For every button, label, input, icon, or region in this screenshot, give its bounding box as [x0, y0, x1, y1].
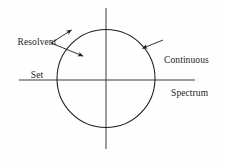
resolvent-set-label-line-2: Set	[8, 70, 66, 81]
resolvent-set-label-line-1: Resolvent	[8, 37, 66, 48]
continuous-spectrum-label-line-2: Spectrum	[164, 88, 224, 99]
resolvent-set-label: Resolvent Set	[8, 15, 66, 103]
continuous-spectrum-label-line-1: Continuous	[164, 55, 224, 66]
continuous-spectrum-leader-line	[143, 40, 164, 48]
continuous-spectrum-label: Continuous Spectrum	[164, 33, 224, 121]
spectrum-diagram-figure: Resolvent Set Continuous Spectrum	[0, 0, 226, 164]
